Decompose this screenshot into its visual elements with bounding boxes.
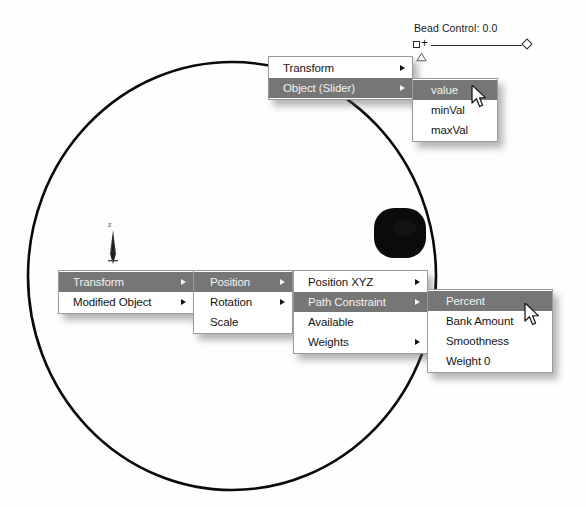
chevron-right-icon [415, 299, 420, 305]
z-axis-gizmo: z [104, 220, 126, 265]
z-axis-label: z [108, 220, 112, 229]
mouse-pointer-bottom [524, 303, 541, 327]
chevron-right-icon [400, 85, 405, 91]
position-controllers-menu[interactable]: Position XYZ Path Constraint Available W… [293, 270, 428, 354]
diamond-key-icon[interactable] [521, 38, 532, 49]
menu-item-label: Weight 0 [446, 355, 490, 367]
slider-rail[interactable] [431, 45, 522, 46]
menu-item-label: Transform [73, 276, 124, 288]
menu-item-label: Position [210, 276, 250, 288]
menu-item-transform-bottom[interactable]: Transform [59, 272, 193, 292]
menu-item-label: Modified Object [73, 296, 151, 308]
chevron-right-icon [280, 279, 285, 285]
menu-item-object-slider[interactable]: Object (Slider) [269, 78, 412, 98]
menu-item-transform-top[interactable]: Transform [269, 58, 412, 78]
object-transform-menu[interactable]: Transform Modified Object [58, 270, 194, 314]
transform-assign-controller-menu[interactable]: Transform Object (Slider) [268, 56, 413, 100]
menu-item-label: Scale [210, 316, 238, 328]
chevron-right-icon [280, 299, 285, 305]
menu-item-label: maxVal [431, 124, 468, 136]
menu-item-label: Weights [308, 336, 349, 348]
menu-item-label: Object (Slider) [283, 82, 355, 94]
menu-item-label: Position XYZ [308, 276, 373, 288]
menu-item-maxval[interactable]: maxVal [413, 120, 497, 140]
transform-components-menu[interactable]: Position Rotation Scale [193, 270, 293, 334]
menu-item-label: Available [308, 316, 354, 328]
bead-control-slider[interactable]: Bead Control: 0.0 + [410, 22, 550, 66]
menu-item-modified-object[interactable]: Modified Object [59, 292, 193, 312]
chevron-right-icon [400, 65, 405, 71]
chevron-right-icon [181, 279, 186, 285]
menu-item-rotation[interactable]: Rotation [194, 292, 292, 312]
menu-item-position[interactable]: Position [194, 272, 292, 292]
menu-item-label: Percent [446, 295, 485, 307]
mouse-pointer-top [471, 85, 488, 109]
triangle-marker-icon[interactable] [416, 52, 427, 62]
menu-item-path-constraint[interactable]: Path Constraint [294, 292, 427, 312]
menu-item-label: Bank Amount [446, 315, 513, 327]
menu-item-label: Rotation [210, 296, 252, 308]
path-constraint-params-menu[interactable]: Percent Bank Amount Smoothness Weight 0 [427, 289, 553, 373]
chevron-right-icon [415, 279, 420, 285]
menu-item-scale[interactable]: Scale [194, 312, 292, 332]
menu-item-smoothness[interactable]: Smoothness [428, 331, 552, 351]
screenshot-canvas: z Bead Control: 0.0 + Transform Object (… [0, 0, 586, 507]
slider-label: Bead Control: 0.0 [414, 22, 497, 34]
slider-track[interactable]: + [410, 39, 540, 53]
square-plus-icon[interactable] [413, 41, 420, 48]
menu-item-label: value [431, 84, 458, 96]
menu-item-label: minVal [431, 104, 465, 116]
chevron-right-icon [181, 299, 186, 305]
menu-item-weights[interactable]: Weights [294, 332, 427, 352]
menu-item-label: Path Constraint [308, 296, 386, 308]
menu-item-label: Transform [283, 62, 334, 74]
chevron-right-icon [415, 339, 420, 345]
menu-item-available[interactable]: Available [294, 312, 427, 332]
bead-object [374, 208, 426, 258]
menu-item-position-xyz[interactable]: Position XYZ [294, 272, 427, 292]
menu-item-label: Smoothness [446, 335, 509, 347]
menu-item-weight-0[interactable]: Weight 0 [428, 351, 552, 371]
plus-glyph: + [421, 36, 428, 50]
